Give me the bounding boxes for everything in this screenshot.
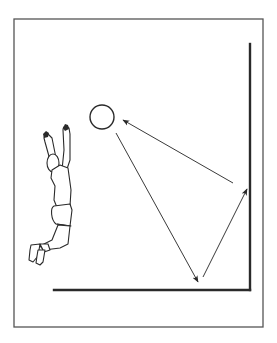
player-right-foot — [36, 250, 45, 265]
trajectory — [116, 120, 247, 282]
ball — [90, 105, 114, 129]
jumping-player — [29, 124, 72, 265]
arrow-wall-to-ball — [123, 120, 233, 183]
rebound-diagram — [0, 0, 277, 343]
player-right-arm — [62, 126, 70, 172]
player-shorts — [52, 204, 72, 226]
arrow-floor-to-wall — [203, 189, 247, 277]
player-torso — [51, 165, 71, 210]
